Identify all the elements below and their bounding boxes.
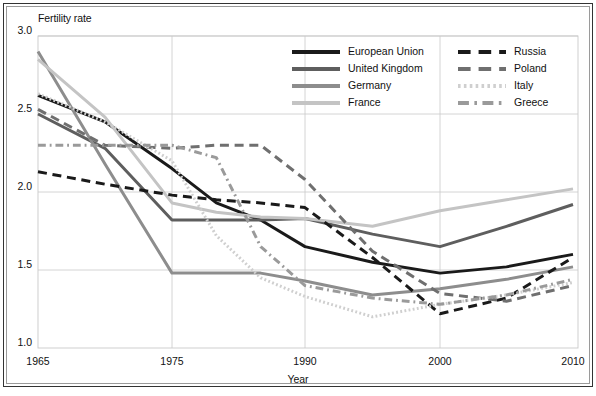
legend-label-france: France: [348, 96, 381, 108]
grid-lines: [38, 36, 578, 348]
legend-label-united-kingdom: United Kingdom: [348, 62, 423, 74]
series-line-russia: [38, 172, 573, 314]
y-tick-label: 2.0: [2, 180, 32, 192]
legend-label-germany: Germany: [348, 79, 391, 91]
series-line-italy: [38, 94, 573, 317]
x-tick-label: 2000: [420, 355, 460, 367]
series-line-poland: [38, 109, 573, 301]
x-tick-label: 1965: [18, 355, 58, 367]
x-tick-label: 2010: [553, 355, 593, 367]
legend-label-european-union: European Union: [348, 45, 424, 57]
legend-label-greece: Greece: [514, 96, 548, 108]
legend-label-poland: Poland: [514, 62, 547, 74]
data-series-group: [38, 52, 573, 317]
x-tick-label: 1975: [152, 355, 192, 367]
legend-swatches: [292, 52, 506, 103]
legend-label-russia: Russia: [514, 45, 546, 57]
y-tick-label: 1.0: [2, 336, 32, 348]
legend-label-italy: Italy: [514, 79, 533, 91]
series-line-germany: [38, 52, 573, 295]
fertility-rate-line-chart: [0, 0, 596, 396]
y-tick-label: 1.5: [2, 258, 32, 270]
y-tick-label: 3.0: [2, 24, 32, 36]
x-tick-label: 1990: [285, 355, 325, 367]
chart-figure: Fertility rate Year 1.01.52.02.53.019651…: [0, 0, 596, 396]
y-tick-label: 2.5: [2, 102, 32, 114]
